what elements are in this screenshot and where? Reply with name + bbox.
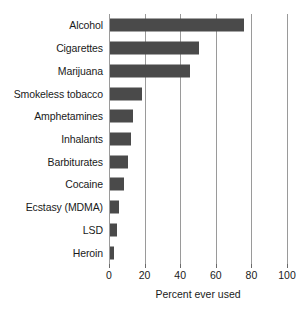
bar xyxy=(110,110,133,123)
bar-row: Cigarettes xyxy=(0,37,296,60)
bar xyxy=(110,64,190,77)
bar-chart: AlcoholCigarettesMarijuanaSmokeless toba… xyxy=(0,0,296,310)
category-label: Alcohol xyxy=(69,19,103,31)
x-tick-mark xyxy=(109,264,110,268)
bar xyxy=(110,132,131,145)
bar-row: Amphetamines xyxy=(0,105,296,128)
x-tick-mark xyxy=(251,264,252,268)
category-label: LSD xyxy=(83,224,103,236)
bar xyxy=(110,246,114,259)
bar-row: Marijuana xyxy=(0,59,296,82)
category-label: Barbiturates xyxy=(48,156,103,168)
x-tick-mark xyxy=(216,264,217,268)
bar-row: Cocaine xyxy=(0,173,296,196)
x-axis: 020406080100 xyxy=(109,264,287,290)
x-tick-mark xyxy=(145,264,146,268)
bar-row: Inhalants xyxy=(0,128,296,151)
bar-row: Ecstasy (MDMA) xyxy=(0,196,296,219)
bar xyxy=(110,87,142,100)
bar-row: LSD xyxy=(0,219,296,242)
category-label: Cocaine xyxy=(65,178,103,190)
bar xyxy=(110,42,199,55)
x-tick-mark xyxy=(287,264,288,268)
x-tick-label: 80 xyxy=(246,269,258,281)
bar-row: Heroin xyxy=(0,241,296,264)
category-label: Heroin xyxy=(73,247,103,259)
category-label: Inhalants xyxy=(61,133,103,145)
x-axis-title: Percent ever used xyxy=(109,288,287,300)
bar-rows: AlcoholCigarettesMarijuanaSmokeless toba… xyxy=(0,0,296,250)
category-label: Cigarettes xyxy=(56,42,103,54)
bar xyxy=(110,223,117,236)
x-tick-label: 40 xyxy=(174,269,186,281)
x-tick-label: 0 xyxy=(106,269,112,281)
category-label: Marijuana xyxy=(58,65,103,77)
bar xyxy=(110,155,128,168)
bar-row: Barbiturates xyxy=(0,150,296,173)
bar xyxy=(110,201,119,214)
category-label: Smokeless tobacco xyxy=(14,88,103,100)
category-label: Amphetamines xyxy=(34,110,103,122)
category-label: Ecstasy (MDMA) xyxy=(26,201,103,213)
bar xyxy=(110,19,244,32)
x-tick-label: 100 xyxy=(278,269,296,281)
bar-row: Alcohol xyxy=(0,14,296,37)
x-tick-label: 60 xyxy=(210,269,222,281)
bar-row: Smokeless tobacco xyxy=(0,82,296,105)
x-tick-label: 20 xyxy=(139,269,151,281)
bar xyxy=(110,178,124,191)
x-tick-mark xyxy=(180,264,181,268)
